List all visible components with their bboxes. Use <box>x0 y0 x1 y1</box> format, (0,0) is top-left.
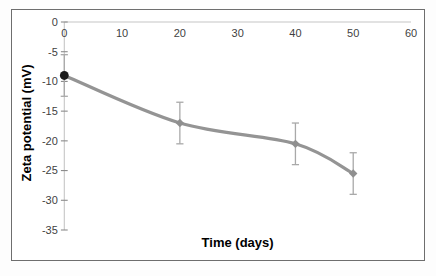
plot-area: 0-5-10-15-20-25-30-350102030405060 <box>42 16 417 236</box>
y-tick-label: 0 <box>52 16 58 28</box>
zeta-potential-chart: 0-5-10-15-20-25-30-350102030405060 Time … <box>0 0 436 276</box>
y-tick-label: -25 <box>42 164 58 176</box>
x-tick-label: 30 <box>232 27 244 39</box>
x-tick-label: 0 <box>61 27 67 39</box>
data-point-marker <box>291 140 299 148</box>
y-tick-label: -10 <box>42 75 58 87</box>
x-tick-label: 60 <box>405 27 417 39</box>
y-tick-label: -5 <box>48 46 58 58</box>
data-point-marker <box>60 71 69 80</box>
chart-figure: 0-5-10-15-20-25-30-350102030405060 Time … <box>0 0 436 276</box>
x-axis-title: Time (days) <box>202 235 274 250</box>
x-tick-label: 50 <box>347 27 359 39</box>
x-tick-label: 40 <box>289 27 301 39</box>
y-tick-label: -15 <box>42 105 58 117</box>
y-axis-title: Zeta potential (mV) <box>19 64 34 181</box>
series-line <box>64 75 353 173</box>
y-tick-label: -30 <box>42 194 58 206</box>
x-tick-label: 10 <box>116 27 128 39</box>
x-tick-label: 20 <box>174 27 186 39</box>
y-tick-label: -35 <box>42 224 58 236</box>
data-point-marker <box>176 119 184 127</box>
y-tick-label: -20 <box>42 135 58 147</box>
